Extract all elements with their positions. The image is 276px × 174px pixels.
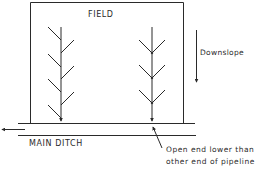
- herringbone-pipeline: [48, 27, 74, 121]
- annotation-line-2: other end of pipeline: [166, 158, 255, 166]
- annotation-leader: [153, 127, 162, 148]
- field-label: FIELD: [88, 11, 114, 19]
- downslope-label: Downslope: [200, 49, 244, 57]
- drainage-diagram: FIELD MAIN DITCH Downslope Open end lowe…: [0, 0, 276, 174]
- main-ditch: [18, 124, 196, 136]
- chevron-pipeline: [139, 27, 165, 121]
- annotation-line-1: Open end lower than: [166, 146, 254, 154]
- main-ditch-label: MAIN DITCH: [29, 140, 83, 148]
- field-box: [31, 3, 184, 124]
